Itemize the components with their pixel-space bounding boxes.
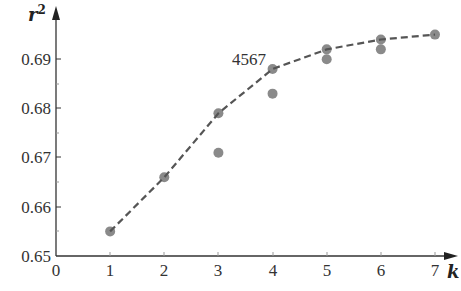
y-tick-label: 0.67 bbox=[21, 148, 51, 167]
x-tick-label: 1 bbox=[106, 261, 115, 280]
x-tick-label: 0 bbox=[52, 261, 61, 280]
x-tick-label: 2 bbox=[160, 261, 169, 280]
plot-area bbox=[105, 30, 440, 237]
y-ticks bbox=[56, 59, 61, 231]
x-tick-label: 6 bbox=[377, 261, 386, 280]
y-tick-label: 0.69 bbox=[21, 50, 51, 69]
x-tick-label: 3 bbox=[214, 261, 223, 280]
y-tick-label: 0.65 bbox=[21, 247, 51, 266]
data-point bbox=[322, 54, 332, 64]
y-axis-label: r2 bbox=[28, 3, 46, 25]
y-tick-label: 0.66 bbox=[21, 198, 51, 217]
subset-annotation: 4567 bbox=[232, 50, 267, 69]
y-axis-arrow-icon bbox=[52, 6, 60, 20]
x-axis-arrow-icon bbox=[444, 252, 458, 260]
r-squared-chart: 0.69 0.68 0.67 0.66 0.65 0 1 2 3 4 5 6 7… bbox=[0, 0, 461, 291]
x-axis-label: k bbox=[447, 261, 459, 282]
data-point bbox=[268, 89, 278, 99]
x-tick-label: 5 bbox=[323, 261, 332, 280]
data-point bbox=[213, 148, 223, 158]
y-tick-label: 0.68 bbox=[21, 99, 51, 118]
x-tick-label: 4 bbox=[269, 261, 278, 280]
data-point bbox=[376, 44, 386, 54]
x-tick-label: 7 bbox=[431, 261, 440, 280]
